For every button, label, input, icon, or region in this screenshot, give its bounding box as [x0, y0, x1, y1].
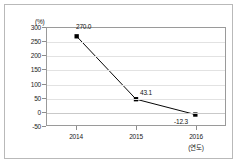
y-axis-tick [42, 98, 46, 99]
chart-frame: (%) 300250200150100500-50 201420152016(연… [4, 4, 233, 159]
data-point-marker [74, 34, 78, 38]
series-line [77, 36, 196, 114]
y-axis-labels: 300250200150100500-50 [10, 5, 41, 164]
x-axis-tick-label: 2014 [54, 133, 98, 140]
y-axis-tick-label: 300 [13, 24, 41, 31]
y-axis-tick [42, 55, 46, 56]
y-axis-tick-label: -50 [13, 123, 41, 130]
x-axis-tick-label: 2016 [174, 133, 218, 140]
y-axis-tick [42, 84, 46, 85]
data-point-label: 43.1 [140, 89, 152, 96]
y-axis-tick-label: 100 [13, 80, 41, 87]
plot-area [46, 27, 226, 126]
y-axis-tick [42, 41, 46, 42]
x-axis-tick [76, 126, 77, 130]
gridline [47, 85, 225, 86]
gridline [47, 42, 225, 43]
gridline [47, 56, 225, 57]
gridline [47, 113, 225, 114]
gridline [47, 99, 225, 100]
x-axis-tick [136, 126, 137, 130]
data-point-label: -12.3 [174, 118, 188, 125]
y-axis-tick [42, 126, 46, 127]
gridline [47, 70, 225, 71]
data-point-label: 270.0 [76, 23, 91, 30]
x-axis-tick-label: 2015 [114, 133, 158, 140]
y-axis-tick-label: 50 [13, 94, 41, 101]
x-axis-note: (연도) [174, 142, 218, 152]
x-axis-tick [196, 126, 197, 130]
y-axis-tick-label: 250 [13, 38, 41, 45]
y-axis-tick [42, 112, 46, 113]
y-axis-tick-label: 0 [13, 108, 41, 115]
y-axis-tick-label: 150 [13, 66, 41, 73]
y-axis-tick [42, 69, 46, 70]
y-axis-tick-label: 200 [13, 52, 41, 59]
y-axis-tick [42, 27, 46, 28]
